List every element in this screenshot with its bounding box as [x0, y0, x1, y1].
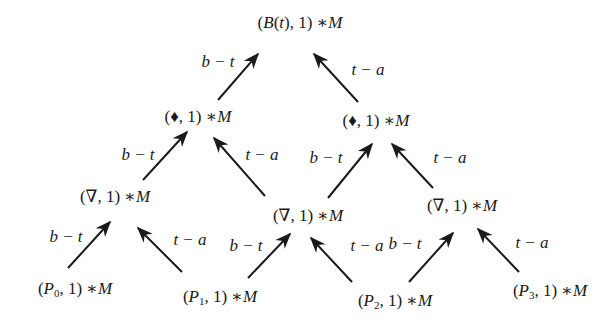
tree-node-l3a: (∇, 1) ∗M — [80, 186, 150, 207]
edge-label: b − t — [121, 145, 154, 165]
arrow-p3-to-l3c — [478, 229, 519, 272]
tree-node-p1: (P1, 1) ∗M — [183, 286, 257, 307]
edge-label: t − a — [433, 148, 466, 168]
tree-node-l3c: (∇, 1) ∗M — [427, 195, 497, 216]
edge-label: t − a — [515, 233, 548, 253]
edge-label: b − t — [388, 234, 421, 254]
tree-node-p2: (P2, 1) ∗M — [358, 290, 432, 311]
edge-label: b − t — [49, 227, 82, 247]
tree-node-root: (B(t), 1) ∗M — [258, 12, 343, 33]
arrow-l3c-to-l2b — [392, 144, 433, 188]
edge-label: t − a — [245, 145, 278, 165]
tree-node-p3: (P3, 1) ∗M — [513, 280, 587, 301]
tree-node-l3b: (∇, 1) ∗M — [273, 205, 343, 226]
edge-label: b − t — [309, 148, 342, 168]
edge-label: t − a — [173, 230, 206, 250]
arrow-p2-to-l3b — [311, 238, 352, 282]
edge-layer — [0, 0, 616, 324]
edge-label: t − a — [350, 236, 383, 256]
edge-label: t − a — [351, 60, 384, 80]
edge-label: b − t — [229, 236, 262, 256]
tree-node-l2b: (♦, 1) ∗M — [343, 110, 410, 131]
tree-node-p0: (P0, 1) ∗M — [38, 278, 112, 299]
edge-label: b − t — [201, 52, 234, 72]
tree-node-l2a: (♦, 1) ∗M — [165, 106, 232, 127]
